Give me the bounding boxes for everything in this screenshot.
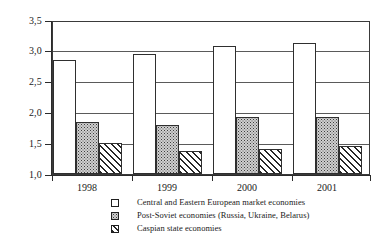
bar-1998-caspian xyxy=(99,143,122,174)
y-tick-mark xyxy=(45,82,51,83)
hatched-square-icon xyxy=(111,225,119,233)
bar-2000-caspian xyxy=(259,149,282,174)
gridline-2-0 xyxy=(53,113,369,114)
x-tick-label-1998: 1998 xyxy=(62,182,112,194)
bar-2001-central-eastern xyxy=(293,43,316,174)
legend-item-caspian: Caspian state economies xyxy=(111,222,381,235)
y-tick-label: 2,0 xyxy=(2,108,42,118)
legend-label: Central and Eastern European market econ… xyxy=(137,198,305,207)
legend-item-post-soviet: Post-Soviet economies (Russia, Ukraine, … xyxy=(111,209,381,222)
x-tick-mark xyxy=(292,176,293,181)
x-tick-mark xyxy=(52,176,53,181)
x-tick-mark xyxy=(212,176,213,181)
x-tick-label-2000: 2000 xyxy=(222,182,272,194)
x-tick-mark xyxy=(370,176,371,181)
legend-label: Post-Soviet economies (Russia, Ukraine, … xyxy=(137,211,309,220)
chart-legend: Central and Eastern European market econ… xyxy=(111,196,381,235)
x-axis-line xyxy=(45,175,371,176)
y-tick-label: 2,5 xyxy=(2,77,42,87)
bar-1999-caspian xyxy=(179,151,202,174)
gridline-2-5 xyxy=(53,82,369,83)
empty-square-icon xyxy=(111,199,119,207)
y-tick-mark xyxy=(45,51,51,52)
x-tick-label-1999: 1999 xyxy=(142,182,192,194)
bar-2001-post-soviet xyxy=(316,117,339,174)
y-tick-label: 3,0 xyxy=(2,46,42,56)
y-tick-label: 1,5 xyxy=(2,139,42,149)
bar-1998-post-soviet xyxy=(76,122,99,174)
bar-2000-central-eastern xyxy=(213,46,236,174)
y-tick-label: 1,0 xyxy=(2,170,42,180)
y-tick-label: 3,5 xyxy=(2,16,42,26)
bar-1999-central-eastern xyxy=(133,54,156,174)
x-tick-mark xyxy=(132,176,133,181)
bar-1998-central-eastern xyxy=(53,60,76,174)
bar-chart: 3,5 3,0 2,5 2,0 1,5 1,0 xyxy=(0,0,390,248)
bar-2001-caspian xyxy=(339,146,362,174)
y-tick-mark xyxy=(45,21,51,22)
plot-area xyxy=(52,21,370,175)
legend-item-central-eastern: Central and Eastern European market econ… xyxy=(111,196,381,209)
x-tick-label-2001: 2001 xyxy=(302,182,352,194)
legend-label: Caspian state economies xyxy=(137,224,222,233)
bar-2000-post-soviet xyxy=(236,117,259,174)
y-tick-mark xyxy=(45,113,51,114)
gridline-3-0 xyxy=(53,51,369,52)
y-tick-mark xyxy=(45,144,51,145)
dotted-square-icon xyxy=(111,212,119,220)
bar-1999-post-soviet xyxy=(156,125,179,174)
